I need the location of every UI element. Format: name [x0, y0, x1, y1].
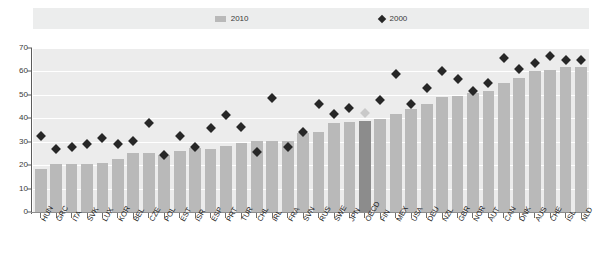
bar	[544, 70, 556, 212]
bar-slot	[558, 48, 573, 212]
bar	[50, 164, 62, 212]
bar	[452, 96, 464, 212]
diamond-marker	[128, 137, 138, 147]
bar	[189, 148, 201, 212]
diamond-marker	[514, 64, 524, 74]
diamond-marker	[51, 144, 61, 154]
x-label-slot: NOR	[465, 219, 480, 267]
bar	[127, 153, 139, 212]
bar	[359, 121, 371, 212]
bar-slot	[481, 48, 496, 212]
diamond-marker	[175, 131, 185, 141]
bar-slot	[187, 48, 202, 212]
bar	[560, 67, 572, 212]
diamond-marker	[98, 133, 108, 143]
y-axis-tickmark	[27, 118, 32, 119]
diamond-marker	[483, 78, 493, 88]
diamond-marker	[36, 131, 46, 141]
x-label-slot: SWE	[326, 219, 341, 267]
bar	[220, 146, 232, 212]
bar	[575, 67, 587, 212]
bar	[421, 104, 433, 212]
bar	[344, 122, 356, 212]
diamond-marker	[329, 109, 339, 119]
chart-screenshot: 2010 2000 010203040506070 HUNGRCITASVKLU…	[0, 0, 599, 269]
x-label-slot: HUN	[33, 219, 48, 267]
bar	[513, 78, 525, 212]
bar	[483, 91, 495, 212]
bar-series	[33, 48, 589, 212]
diamond-marker	[422, 83, 432, 93]
x-label-slot: OECD	[357, 219, 372, 267]
bar-slot	[512, 48, 527, 212]
bar-slot	[48, 48, 63, 212]
bar-slot	[388, 48, 403, 212]
x-label-slot: CAN	[496, 219, 511, 267]
bar	[498, 83, 510, 212]
bar	[143, 153, 155, 212]
y-axis-tickmark	[27, 71, 32, 72]
bar-slot	[79, 48, 94, 212]
bar	[97, 163, 109, 212]
x-label-slot: GRC	[48, 219, 63, 267]
x-label-slot: CZE	[141, 219, 156, 267]
diamond-marker	[67, 142, 77, 152]
bar-slot	[542, 48, 557, 212]
diamond-marker	[561, 55, 571, 65]
diamond-marker	[314, 100, 324, 110]
x-label-slot: IRL	[265, 219, 280, 267]
x-label-slot: ITA	[64, 219, 79, 267]
bar-slot	[218, 48, 233, 212]
x-label-slot: SVN	[295, 219, 310, 267]
bar	[35, 169, 47, 212]
bar-slot	[404, 48, 419, 212]
bar-slot	[95, 48, 110, 212]
bar-slot	[172, 48, 187, 212]
bar	[236, 143, 248, 212]
bar-slot	[342, 48, 357, 212]
bar	[174, 151, 186, 212]
bar-slot	[249, 48, 264, 212]
y-axis: 010203040506070	[0, 40, 30, 212]
legend-item-2010: 2010	[215, 15, 249, 23]
x-label-slot: FRA	[280, 219, 295, 267]
y-axis-line	[31, 48, 32, 214]
legend-label-2000: 2000	[390, 15, 408, 23]
x-label-slot: NZL	[434, 219, 449, 267]
bar	[297, 133, 309, 212]
bar	[436, 97, 448, 212]
diamond-marker	[206, 123, 216, 133]
bar	[266, 141, 278, 212]
bar-slot	[311, 48, 326, 212]
plot-area	[33, 48, 589, 212]
plot-wrapper: 010203040506070 HUNGRCITASVKLUXKORBELCZE…	[0, 40, 599, 269]
x-label-slot: JPN	[342, 219, 357, 267]
bar-slot	[419, 48, 434, 212]
bar	[158, 155, 170, 212]
x-label-slot: PRT	[218, 219, 233, 267]
diamond-marker	[221, 110, 231, 120]
x-label-slot: CHL	[249, 219, 264, 267]
bar-slot	[450, 48, 465, 212]
diamond-marker	[453, 74, 463, 84]
bar-swatch-icon	[215, 16, 226, 22]
diamond-marker	[267, 93, 277, 103]
x-label-slot: BEL	[126, 219, 141, 267]
bar-slot	[265, 48, 280, 212]
bar	[205, 149, 217, 212]
bar-slot	[573, 48, 588, 212]
bar-slot	[373, 48, 388, 212]
bar-slot	[357, 48, 372, 212]
x-label-slot: USA	[404, 219, 419, 267]
x-label-slot: CHE	[542, 219, 557, 267]
bar	[328, 123, 340, 212]
y-axis-tickmark	[27, 48, 32, 49]
diamond-marker	[82, 139, 92, 149]
diamond-marker	[236, 122, 246, 132]
diamond-marker	[113, 139, 123, 149]
bar-slot	[141, 48, 156, 212]
diamond-icon	[377, 14, 385, 22]
diamond-marker	[391, 69, 401, 79]
x-label-slot: NLD	[573, 219, 588, 267]
x-label-slot: GBR	[450, 219, 465, 267]
